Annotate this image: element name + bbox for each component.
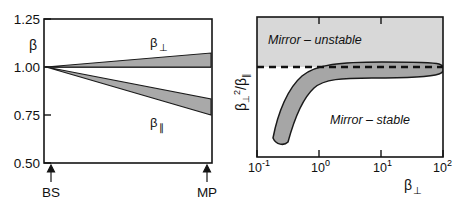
right-xtick-label-1e-1: 10 -1 — [248, 158, 270, 175]
two-panel-figure: 1.25 1.00 0.75 0.50 β β ⊥ β ∥ — [0, 0, 463, 202]
mp-label: MP — [197, 185, 217, 200]
right-xtick-label-1e1: 10 1 — [373, 158, 392, 175]
left-ytick-label-075: 0.75 — [14, 108, 40, 123]
svg-text:10: 10 — [433, 161, 447, 175]
region-label-mirror-unstable: Mirror – unstable — [268, 33, 362, 47]
right-xtick-label-1e2: 10 2 — [433, 158, 452, 175]
svg-text:0: 0 — [325, 158, 330, 168]
left-ytick-label-050: 0.50 — [14, 156, 40, 171]
svg-text:2: 2 — [447, 158, 452, 168]
band-beta-perp — [46, 53, 211, 67]
right-xaxis-label-symbol: β — [404, 177, 412, 193]
left-panel-svg: 1.25 1.00 0.75 0.50 β β ⊥ β ∥ — [0, 0, 232, 202]
annotation-beta-parallel-symbol: β — [150, 115, 157, 130]
annotation-beta-parallel: β ∥ — [150, 115, 164, 134]
svg-text:10: 10 — [373, 161, 387, 175]
left-panel-beta-profile: 1.25 1.00 0.75 0.50 β β ⊥ β ∥ — [0, 0, 232, 202]
bs-arrow-head-icon — [48, 165, 55, 172]
svg-text:1: 1 — [387, 158, 392, 168]
svg-text:10: 10 — [311, 161, 325, 175]
right-xaxis-label-subscript: ⊥ — [413, 185, 422, 196]
svg-text:10: 10 — [248, 161, 262, 175]
right-xaxis-label: β ⊥ — [404, 177, 422, 196]
annotation-beta-parallel-subscript: ∥ — [159, 122, 164, 134]
right-yaxis-label: β⊥2/β∥ — [232, 73, 251, 111]
region-label-mirror-stable: Mirror – stable — [330, 113, 410, 127]
marker-mp: MP — [197, 165, 217, 200]
left-ytick-label-125: 1.25 — [14, 12, 40, 27]
right-xtick-label-1e0: 10 0 — [311, 158, 330, 175]
mp-arrow-head-icon — [204, 165, 211, 172]
left-yaxis-label: β — [29, 37, 37, 53]
marker-bs: BS — [42, 165, 60, 200]
right-panel-svg: 10 -1 10 0 10 1 10 2 β ⊥ — [232, 0, 463, 202]
annotation-beta-perp: β ⊥ — [150, 35, 168, 53]
annotation-beta-perp-symbol: β — [150, 35, 157, 50]
band-beta-parallel — [46, 67, 211, 115]
right-yaxis-label-text: β⊥2/β∥ — [232, 73, 251, 111]
svg-text:-1: -1 — [262, 158, 270, 168]
bs-label: BS — [42, 185, 60, 200]
right-panel-mirror-stability: 10 -1 10 0 10 1 10 2 β ⊥ — [232, 0, 463, 202]
annotation-beta-perp-subscript: ⊥ — [159, 42, 168, 53]
left-ytick-label-100: 1.00 — [14, 60, 40, 75]
